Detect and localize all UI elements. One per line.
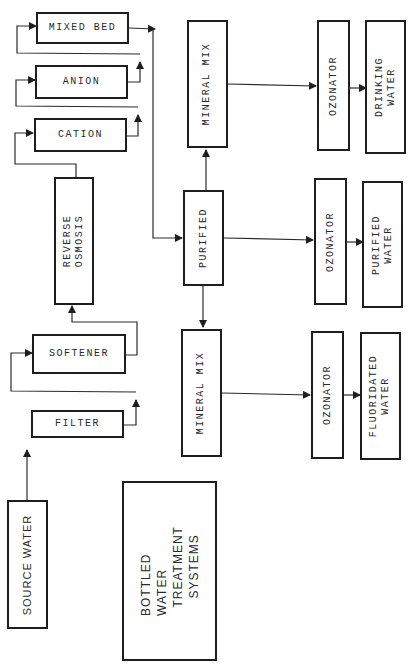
mineral-mix-bottom-box: MINERAL MIX	[181, 329, 222, 457]
ozonator-mid-label: OZONATOR	[325, 211, 337, 271]
source-water-box: SOURCE WATER	[7, 500, 48, 629]
drinking-water-box: DRINKING WATER	[365, 20, 406, 154]
source-water-label: SOURCE WATER	[22, 514, 34, 615]
diagram-title-box: BOTTLED WATER TREATMENT SYSTEMS	[122, 481, 217, 661]
cation-box: CATION	[34, 118, 127, 152]
fluoridated-water-label: FLUORIDATED WATER	[369, 355, 393, 438]
ozonator-mid-box: OZONATOR	[314, 178, 347, 305]
mineral-mix-bottom-label: MINERAL MIX	[196, 352, 208, 435]
purified-label: PURIFIED	[198, 208, 210, 268]
filter-box: FILTER	[31, 410, 124, 438]
softener-label: SOFTENER	[49, 348, 109, 360]
mixed-bed-label: MIXED BED	[49, 22, 117, 34]
ozonator-bottom-label: OZONATOR	[322, 365, 334, 425]
purified-water-label: PURIFIED WATER	[371, 214, 395, 274]
reverse-osmosis-label: REVERSE OSMOSIS	[62, 215, 86, 268]
purified-box: PURIFIED	[183, 190, 224, 286]
mixed-bed-box: MIXED BED	[36, 12, 129, 44]
mineral-mix-top-box: MINERAL MIX	[187, 20, 228, 148]
purified-water-box: PURIFIED WATER	[362, 181, 403, 308]
cation-label: CATION	[58, 129, 103, 141]
anion-box: ANION	[35, 65, 128, 99]
filter-label: FILTER	[55, 418, 100, 430]
anion-label: ANION	[63, 76, 101, 88]
diagram-title: BOTTLED WATER TREATMENT SYSTEMS	[137, 526, 201, 616]
ozonator-top-label: OZONATOR	[328, 55, 340, 115]
ozonator-bottom-box: OZONATOR	[311, 331, 344, 459]
reverse-osmosis-box: REVERSE OSMOSIS	[54, 177, 94, 305]
softener-box: SOFTENER	[32, 334, 126, 374]
drinking-water-label: DRINKING WATER	[374, 57, 398, 117]
fluoridated-water-box: FLUORIDATED WATER	[360, 332, 401, 460]
ozonator-top-box: OZONATOR	[317, 20, 350, 151]
mineral-mix-top-label: MINERAL MIX	[202, 43, 214, 126]
